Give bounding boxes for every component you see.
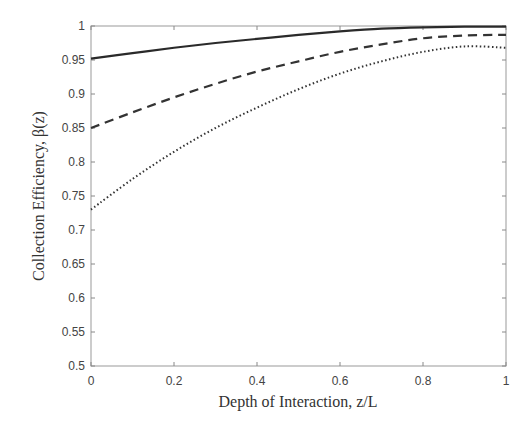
x-tick-label: 0: [88, 374, 95, 388]
y-tick-label: 0.95: [62, 53, 86, 67]
y-tick-label: 0.9: [68, 87, 85, 101]
y-tick-label: 0.85: [62, 121, 86, 135]
x-axis-title: Depth of Interaction, z/L: [218, 393, 377, 411]
y-axis: 0.50.550.60.650.70.750.80.850.90.951: [62, 19, 506, 373]
y-tick-label: 0.8: [68, 155, 85, 169]
x-tick-label: 0.4: [249, 374, 266, 388]
series-dotted-line: [91, 46, 506, 209]
x-tick-label: 0.6: [332, 374, 349, 388]
y-tick-label: 0.6: [68, 291, 85, 305]
plot-border: [91, 26, 506, 366]
x-tick-label: 1: [503, 374, 510, 388]
data-series: [91, 27, 506, 210]
plot-area: [91, 26, 506, 366]
y-tick-label: 0.7: [68, 223, 85, 237]
y-tick-label: 0.75: [62, 189, 86, 203]
y-tick-label: 0.65: [62, 257, 86, 271]
y-axis-title: Collection Efficiency, β(z): [30, 111, 48, 281]
series-dashed-line: [91, 35, 506, 128]
y-tick-label: 0.55: [62, 325, 86, 339]
x-tick-label: 0.8: [415, 374, 432, 388]
y-tick-label: 1: [78, 19, 85, 33]
x-tick-label: 0.2: [166, 374, 183, 388]
y-tick-label: 0.5: [68, 359, 85, 373]
series-solid-line: [91, 27, 506, 59]
x-axis: 00.20.40.60.81: [88, 26, 510, 388]
line-chart: 0.50.550.60.650.70.750.80.850.90.951 00.…: [0, 0, 529, 428]
